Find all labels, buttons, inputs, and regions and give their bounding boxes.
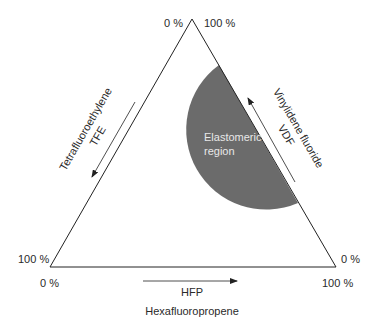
hfp-abbr: HFP [181,286,203,298]
bottom-left-below-percent: 0 % [40,277,59,289]
ternary-diagram: 0 % 100 % 100 % 0 % 0 % 100 % HFP Hexafl… [0,0,376,328]
region-label-line1: Elastomeric [204,131,262,143]
bottom-right-side-percent: 0 % [341,253,360,265]
region-label-line2: region [204,145,235,157]
top-right-percent: 100 % [204,17,235,29]
top-left-percent: 0 % [164,17,183,29]
bottom-left-side-percent: 100 % [18,253,49,265]
bottom-right-below-percent: 100 % [322,277,353,289]
hfp-name: Hexafluoropropene [145,305,239,317]
